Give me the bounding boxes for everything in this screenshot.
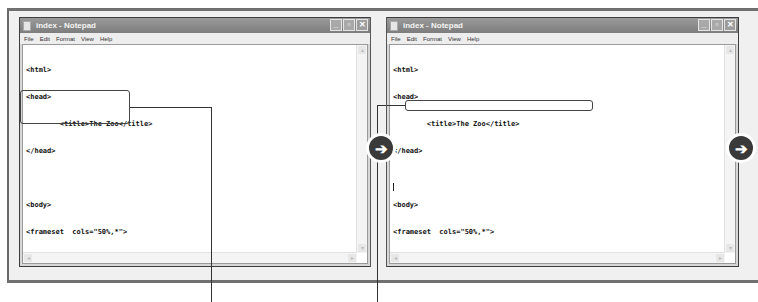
menu-edit[interactable]: Edit [40, 36, 50, 42]
notepad-icon [390, 21, 398, 31]
notepad-window-left: index - Notepad _ ▫ ✕ File Edit Format V… [19, 17, 371, 267]
scroll-up-icon[interactable]: ▴ [726, 46, 734, 54]
code-line: <body> [26, 201, 152, 210]
text-cursor [393, 183, 394, 191]
menu-bar: File Edit Format View Help [387, 33, 738, 44]
code-line: <frameset cols="50%,*"> [393, 228, 583, 237]
text-editor[interactable]: <html> <head> <title>The Zoo</title> </h… [22, 44, 368, 264]
code-line: </head> [26, 147, 152, 156]
maximize-button[interactable]: ▫ [343, 19, 355, 31]
minimize-button[interactable]: _ [330, 19, 342, 31]
next-step-arrow-icon: ➔ [366, 133, 396, 163]
menu-edit[interactable]: Edit [407, 36, 417, 42]
scroll-right-icon[interactable]: ▸ [716, 254, 724, 262]
maximize-button[interactable]: ▫ [711, 19, 723, 31]
menu-help[interactable]: Help [100, 36, 112, 42]
code-line: <html> [26, 66, 152, 75]
code-content: <html> <head> <title>The Zoo</title> </h… [26, 48, 152, 302]
scroll-up-icon[interactable]: ▴ [358, 46, 366, 54]
text-editor[interactable]: <html> <head> <title>The Zoo</title> </h… [389, 44, 736, 264]
window-title: index - Notepad [403, 21, 463, 30]
horizontal-scrollbar[interactable]: ◂ ▸ [23, 252, 357, 263]
code-content: <html> <head> <title>The Zoo</title> </h… [393, 48, 583, 302]
horizontal-scrollbar[interactable]: ◂ ▸ [390, 252, 725, 263]
close-button[interactable]: ✕ [356, 19, 368, 31]
close-button[interactable]: ✕ [724, 19, 736, 31]
code-line: <frameset cols="50%,*"> [26, 228, 152, 237]
window-title: index - Notepad [36, 21, 96, 30]
menu-format[interactable]: Format [423, 36, 442, 42]
code-line [393, 282, 583, 291]
title-bar[interactable]: index - Notepad _ ▫ ✕ [20, 18, 370, 33]
scroll-right-icon[interactable]: ▸ [348, 254, 356, 262]
scroll-left-icon[interactable]: ◂ [391, 254, 399, 262]
notepad-icon [23, 21, 31, 31]
next-step-arrow-icon: ➔ [726, 133, 756, 163]
code-line [26, 282, 152, 291]
minimize-button[interactable]: _ [698, 19, 710, 31]
callout-connector [130, 107, 212, 108]
menu-file[interactable]: File [391, 36, 401, 42]
code-line [26, 174, 152, 183]
code-line: </head> [393, 147, 583, 156]
menu-format[interactable]: Format [56, 36, 75, 42]
code-line: <body> [393, 201, 583, 210]
title-bar[interactable]: index - Notepad _ ▫ ✕ [387, 18, 738, 33]
scroll-left-icon[interactable]: ◂ [24, 254, 32, 262]
menu-help[interactable]: Help [467, 36, 479, 42]
scroll-down-icon[interactable]: ▾ [726, 244, 734, 252]
code-line [393, 174, 583, 183]
code-line: <html> [393, 66, 583, 75]
frame-tag-callout [405, 100, 593, 111]
menu-file[interactable]: File [24, 36, 34, 42]
frameset-callout [20, 90, 130, 124]
menu-bar: File Edit Format View Help [20, 33, 370, 44]
scroll-down-icon[interactable]: ▾ [358, 244, 366, 252]
code-line: <title>The Zoo</title> [393, 120, 583, 129]
callout-connector [211, 107, 212, 302]
notepad-window-right: index - Notepad _ ▫ ✕ File Edit Format V… [386, 17, 739, 267]
panel-top-border [7, 8, 758, 11]
menu-view[interactable]: View [448, 36, 461, 42]
callout-connector [377, 105, 405, 106]
menu-view[interactable]: View [81, 36, 94, 42]
